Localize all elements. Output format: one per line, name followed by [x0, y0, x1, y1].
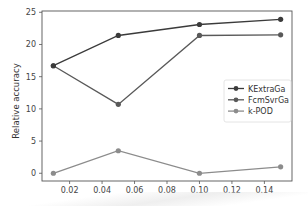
y-tick-label: 15: [26, 73, 36, 82]
legend-marker-icon: [234, 86, 239, 91]
y-axis-label: Relative accuracy: [11, 63, 21, 138]
legend: KExtraGaFcmSvrGak-POD: [224, 80, 291, 122]
legend-marker-icon: [234, 97, 239, 102]
x-tick-label: 0.10: [191, 186, 209, 195]
y-tick-label: 10: [26, 105, 36, 114]
data-point-marker: [51, 63, 56, 68]
data-point-marker: [116, 33, 121, 38]
data-point-marker: [51, 171, 56, 176]
line-chart: 0.020.040.060.080.100.120.14 0510152025 …: [0, 0, 308, 206]
legend-label: FcmSvrGa: [248, 96, 289, 105]
x-tick-label: 0.04: [93, 186, 111, 195]
data-point-marker: [116, 148, 121, 153]
legend-label: k-POD: [248, 107, 273, 116]
x-tick-label: 0.08: [158, 186, 176, 195]
data-point-marker: [278, 32, 283, 37]
x-axis-ticks: 0.020.040.060.080.100.120.14: [61, 181, 274, 195]
legend-marker-icon: [234, 109, 239, 114]
x-tick-label: 0.06: [126, 186, 144, 195]
data-point-marker: [278, 17, 283, 22]
x-tick-label: 0.14: [255, 186, 273, 195]
x-tick-label: 0.12: [223, 186, 241, 195]
legend-label: KExtraGa: [248, 85, 286, 94]
data-point-marker: [197, 22, 202, 27]
y-tick-label: 20: [26, 40, 36, 49]
y-tick-label: 0: [31, 169, 36, 178]
x-tick-label: 0.02: [61, 186, 79, 195]
data-point-marker: [197, 171, 202, 176]
y-axis-ticks: 0510152025: [26, 8, 42, 178]
y-tick-label: 5: [31, 137, 36, 146]
data-point-marker: [278, 164, 283, 169]
y-tick-label: 25: [26, 8, 36, 17]
data-point-marker: [116, 102, 121, 107]
data-point-marker: [197, 33, 202, 38]
